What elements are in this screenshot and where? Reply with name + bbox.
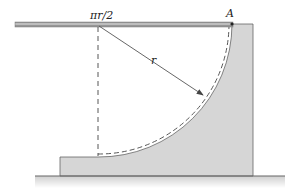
label-pi-r-over-2: πr/2 xyxy=(89,9,113,22)
label-radius: r xyxy=(151,54,157,67)
point-a-dot xyxy=(230,22,233,25)
ceiling-bar xyxy=(15,22,233,27)
block xyxy=(60,24,253,176)
label-point-a: A xyxy=(225,7,234,20)
ground-shading xyxy=(35,176,285,188)
diagram-canvas: πr/2 A r xyxy=(0,0,296,195)
